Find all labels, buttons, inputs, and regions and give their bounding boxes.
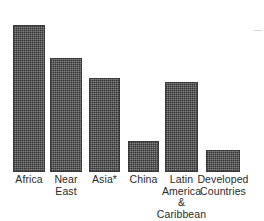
page-edge-mark (254, 30, 262, 31)
bar-category-label: Developed Countries (188, 174, 258, 197)
bar-chart: 6.6 Africa 5.1 Near East 4.2 Asia* 2.2 C… (0, 0, 264, 221)
plot-area: 6.6 Africa 5.1 Near East 4.2 Asia* 2.2 C… (0, 0, 264, 221)
bar-category-label: Asia* (92, 174, 117, 186)
bar (206, 150, 240, 172)
bar (128, 141, 159, 172)
bar (50, 58, 82, 172)
bar-category-label: Africa (15, 174, 42, 186)
bar (89, 78, 120, 172)
bar (13, 25, 45, 172)
bar (165, 82, 198, 172)
bar-category-label: Near East (54, 174, 77, 197)
